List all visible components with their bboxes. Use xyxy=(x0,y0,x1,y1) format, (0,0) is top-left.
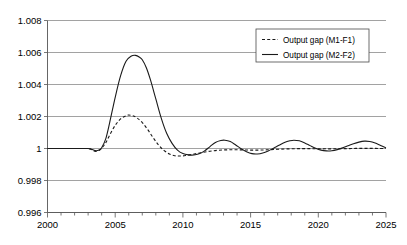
x-axis xyxy=(48,213,387,218)
x-tick-label: 2005 xyxy=(105,219,126,230)
series-line-solid xyxy=(48,55,387,155)
x-tick-label: 2015 xyxy=(240,219,261,230)
y-tick-label: 1.008 xyxy=(18,15,42,26)
y-tick-labels: 0.9960.99811.0021.0041.0061.008 xyxy=(18,15,42,218)
x-tick-label: 2025 xyxy=(375,219,396,230)
y-tick-label: 0.996 xyxy=(18,207,42,218)
line-chart: 0.9960.99811.0021.0041.0061.008 20002005… xyxy=(0,0,407,245)
x-tick-label: 2000 xyxy=(37,219,58,230)
y-tick-label: 1.002 xyxy=(18,111,42,122)
chart-container: 0.9960.99811.0021.0041.0061.008 20002005… xyxy=(0,0,407,245)
y-tick-label: 0.998 xyxy=(18,175,42,186)
data-series xyxy=(48,55,387,156)
chart-legend: Output gap (M1-F1)Output gap (M2-F2) xyxy=(256,29,369,62)
legend-entry-label: Output gap (M2-F2) xyxy=(283,51,355,60)
y-axis xyxy=(44,21,48,213)
y-tick-label: 1.004 xyxy=(18,79,42,90)
legend-entry-label: Output gap (M1-F1) xyxy=(283,36,355,45)
x-tick-labels: 200020052010201520202025 xyxy=(37,219,397,230)
x-tick-label: 2020 xyxy=(308,219,329,230)
y-tick-label: 1 xyxy=(36,143,41,154)
y-tick-label: 1.006 xyxy=(18,47,42,58)
x-tick-label: 2010 xyxy=(172,219,193,230)
